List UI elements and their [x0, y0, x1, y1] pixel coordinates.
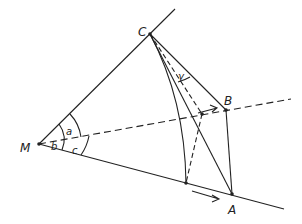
angle-arc-b	[59, 124, 64, 150]
point-p2	[184, 181, 188, 185]
point-m	[37, 142, 41, 146]
label-a: A	[227, 203, 236, 217]
segment-ca	[150, 34, 232, 194]
geometry-diagram: M C B A a b c γ	[0, 0, 302, 224]
angle-label-b: b	[51, 141, 57, 152]
point-b	[224, 108, 228, 112]
label-c: C	[138, 25, 147, 39]
point-p1	[200, 112, 204, 116]
segment-cb	[150, 34, 226, 110]
dashed-p1-p2	[186, 114, 202, 183]
angle-arc-c	[81, 136, 89, 155]
angle-label-a: a	[66, 126, 72, 137]
arrow-toward-a	[192, 191, 219, 202]
label-m: M	[20, 141, 31, 155]
arc-c-p2	[150, 34, 186, 183]
segment-ba	[226, 110, 232, 194]
point-a	[230, 192, 234, 196]
label-b: B	[224, 94, 232, 108]
arrow-toward-b	[198, 105, 217, 113]
angle-label-c: c	[72, 145, 78, 156]
point-c	[148, 32, 152, 36]
